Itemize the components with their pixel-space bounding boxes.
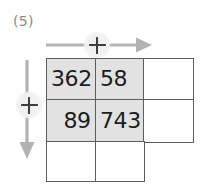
grid-cell-value: 743 <box>100 109 139 131</box>
grid-cell-value: 362 <box>51 68 91 90</box>
grid-cell-r1c0[interactable]: 89 <box>46 99 97 143</box>
vertical-plus-operator <box>15 91 43 119</box>
worksheet-problem: (5) 362 58 89 743 <box>0 0 208 194</box>
grid-cell-r0c1[interactable]: 58 <box>95 58 145 101</box>
grid-cell-r0c0[interactable]: 362 <box>46 58 97 101</box>
plus-icon <box>21 97 38 114</box>
grid-cell-value: 58 <box>100 68 139 90</box>
grid-cell-r1c2[interactable] <box>143 99 194 143</box>
grid-cell-r1c1[interactable]: 743 <box>95 99 145 143</box>
horizontal-plus-operator <box>83 31 111 59</box>
grid-cell-r0c2[interactable] <box>143 58 194 101</box>
problem-number-label: (5) <box>13 13 34 29</box>
grid-cell-r2c1[interactable] <box>95 141 145 182</box>
addition-grid: 362 58 89 743 <box>46 58 194 182</box>
plus-icon <box>89 37 106 54</box>
grid-cell-r2c0[interactable] <box>46 141 97 182</box>
grid-cell-value: 89 <box>51 109 91 131</box>
